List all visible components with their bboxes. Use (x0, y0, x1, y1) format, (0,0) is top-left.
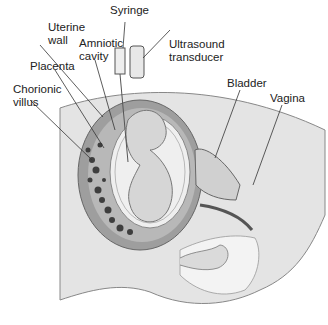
syringe (115, 48, 125, 74)
label-placenta: Placenta (30, 60, 75, 73)
label-amniotic-1: Amniotic (79, 37, 123, 50)
diagram-canvas: Syringe Uterine wall Amniotic cavity Ult… (0, 0, 328, 325)
label-amniotic-2: cavity (79, 50, 108, 63)
label-vagina: Vagina (270, 92, 305, 105)
anatomy-illustration (0, 0, 328, 325)
ultrasound-transducer (130, 46, 144, 78)
label-ultrasound-2: transducer (169, 51, 223, 64)
label-syringe: Syringe (110, 4, 149, 17)
label-chorionic-2: villus (13, 96, 39, 109)
label-bladder: Bladder (227, 77, 267, 90)
label-chorionic-1: Chorionic (13, 83, 62, 96)
label-uterine-wall-1: Uterine (48, 21, 85, 34)
label-uterine-wall-2: wall (48, 34, 68, 47)
label-ultrasound-1: Ultrasound (169, 38, 225, 51)
